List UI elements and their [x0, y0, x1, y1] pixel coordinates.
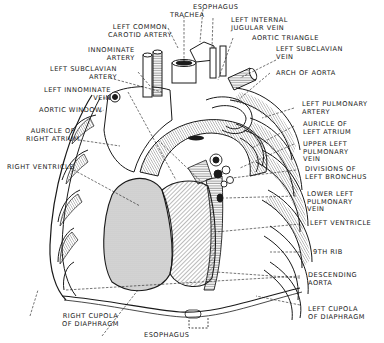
label-arch-of-aorta: ARCH OF AORTA [276, 70, 336, 78]
label-right-cupola-of-diaphragm: RIGHT CUPOLA OF DIAPHRAGM [62, 313, 119, 328]
label-left-ventricle: LEFT VENTRICLE [310, 220, 371, 228]
label-left-subclavian-vein: LEFT SUBCLAVIAN VEIN [276, 46, 343, 61]
label-ninth-rib: 9TH RIB [313, 249, 343, 257]
label-left-subclavian-artery: LEFT SUBCLAVIAN ARTERY [50, 66, 117, 81]
right-ventricle-shape [104, 178, 172, 290]
trachea-shape [172, 60, 196, 84]
label-upper-left-pulmonary-vein: UPPER LEFT PULMONARY VEIN [303, 141, 349, 164]
great-vessels [143, 50, 162, 97]
label-auricle-of-left-atrium: AURICLE OF LEFT ATRIUM [303, 121, 351, 136]
label-left-pulmonary-artery: LEFT PULMONARY ARTERY [302, 101, 368, 116]
label-innominate-artery: INNOMINATE ARTERY [88, 47, 135, 62]
label-divisions-of-left-bronchus: DIVISIONS OF LEFT BRONCHUS [305, 166, 367, 181]
label-descending-aorta: DESCENDING AORTA [308, 272, 357, 287]
label-left-innominate-vein: LEFT INNOMINATE VEIN [44, 87, 111, 102]
label-left-internal-jugular-vein: LEFT INTERNAL JUGULAR VEIN [231, 17, 288, 32]
left-innominate-vein-shape [110, 92, 120, 102]
label-auricle-of-right-atrium: AURICLE OF RIGHT ATRIUM [26, 128, 80, 143]
label-trachea: TRACHEA [170, 12, 204, 20]
label-aortic-triangle: AORTIC TRIANGLE [252, 35, 319, 43]
left-rib-shading [232, 92, 310, 268]
diaphragm [62, 288, 300, 312]
label-esophagus-bottom: ESOPHAGUS [144, 332, 190, 340]
label-left-common-carotid-artery: LEFT COMMON CAROTID ARTERY [108, 24, 172, 39]
label-esophagus-top: ESOPHAGUS [193, 4, 239, 12]
label-lower-left-pulmonary-vein: LOWER LEFT PULMONARY VEIN [307, 191, 354, 214]
label-left-cupola-of-diaphragm: LEFT CUPOLA OF DIAPHRAGM [308, 306, 365, 321]
label-aortic-window: AORTIC WINDOW [39, 107, 102, 115]
label-right-ventricle: RIGHT VENTRICLE [7, 164, 74, 172]
